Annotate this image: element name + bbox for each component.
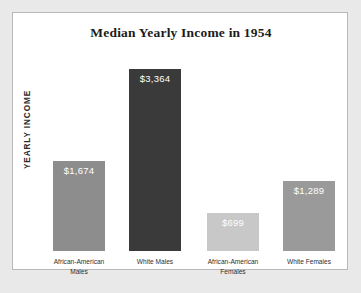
plot-area: $1,674 African-American Males $3,364 Whi… xyxy=(39,51,339,251)
bar-african-american-males: $1,674 xyxy=(53,161,105,251)
y-axis-label: YEARLY INCOME xyxy=(23,70,32,190)
category-label-line1: White Females xyxy=(269,257,349,267)
bar-african-american-females: $699 xyxy=(207,213,259,251)
bar-value-african-american-females: $699 xyxy=(207,217,259,228)
bar-white-females: $1,289 xyxy=(283,181,335,251)
bar-group-african-american-males: $1,674 African-American Males xyxy=(53,51,105,251)
category-label-line1: African-American xyxy=(193,257,273,267)
category-label-white-males: White Males xyxy=(115,257,195,267)
bar-group-white-males: $3,364 White Males xyxy=(129,51,181,251)
chart-panel: Median Yearly Income in 1954 YEARLY INCO… xyxy=(12,12,348,270)
chart-title: Median Yearly Income in 1954 xyxy=(13,25,349,41)
bar-group-african-american-females: $699 African-American Females xyxy=(207,51,259,251)
category-label-african-american-females: African-American Females xyxy=(193,257,273,277)
category-label-african-american-males: African-American Males xyxy=(39,257,119,277)
category-label-line1: White Males xyxy=(115,257,195,267)
bar-value-african-american-males: $1,674 xyxy=(53,165,105,176)
category-label-white-females: White Females xyxy=(269,257,349,267)
bar-white-males: $3,364 xyxy=(129,69,181,251)
bar-group-white-females: $1,289 White Females xyxy=(283,51,335,251)
bar-value-white-females: $1,289 xyxy=(283,185,335,196)
category-label-line2: Females xyxy=(193,267,273,277)
bar-value-white-males: $3,364 xyxy=(129,73,181,84)
category-label-line1: African-American xyxy=(39,257,119,267)
category-label-line2: Males xyxy=(39,267,119,277)
